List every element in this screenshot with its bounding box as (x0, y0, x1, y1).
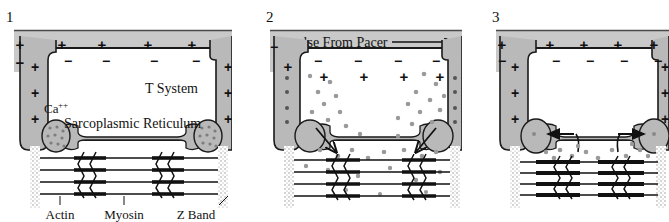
svg-text:+: + (320, 68, 329, 85)
label-calcium-superscript: ++ (58, 100, 68, 110)
svg-text:+: + (436, 68, 445, 85)
svg-text:−: − (16, 54, 25, 71)
svg-text:−: − (354, 53, 362, 69)
panel-2-number: 2 (266, 10, 274, 25)
svg-text:−: − (314, 53, 322, 69)
svg-text:+: + (31, 59, 39, 75)
svg-text:+: + (614, 36, 623, 53)
svg-text:−: − (552, 53, 560, 69)
svg-text:+: + (98, 36, 107, 53)
svg-text:+: + (498, 36, 507, 53)
tubule-charges-right: +++ (224, 59, 232, 127)
panel-3: 3 (468, 0, 669, 222)
myofibrils (40, 152, 218, 198)
svg-text:−: − (586, 53, 594, 69)
svg-text:−: − (620, 53, 628, 69)
panel-1-number: 1 (6, 10, 14, 25)
myofibrils (520, 156, 658, 199)
svg-text:+: + (580, 36, 589, 53)
panel-3-number: 3 (492, 10, 500, 25)
z-band-left (284, 146, 294, 208)
z-band-right (218, 146, 228, 208)
svg-text:+: + (224, 85, 232, 101)
svg-text:+: + (400, 68, 409, 85)
z-band-right (656, 146, 666, 208)
svg-text:−: − (498, 53, 506, 69)
left-edge-negative: − (498, 53, 506, 69)
svg-text:+: + (284, 58, 293, 75)
svg-text:+: + (650, 36, 659, 53)
z-band-left (30, 146, 40, 208)
svg-text:−: − (150, 53, 158, 69)
label-actin: Actin (46, 207, 75, 222)
leader-lines (60, 196, 228, 205)
terminal-cisterna-left (295, 120, 325, 152)
svg-text:+: + (546, 36, 555, 53)
svg-text:+: + (188, 36, 197, 53)
left-edge-negative: − (16, 54, 25, 71)
z-band-right (450, 146, 460, 208)
svg-text:−: − (102, 53, 110, 69)
tubule-charges-left: +++ (31, 59, 39, 127)
svg-text:+: + (661, 111, 669, 127)
svg-text:+: + (58, 36, 67, 53)
svg-text:+: + (144, 36, 153, 53)
svg-text:+: + (16, 36, 25, 53)
svg-text:+: + (360, 68, 369, 85)
svg-text:−: − (394, 53, 402, 69)
stored-calcium-left (532, 132, 536, 136)
label-calcium: Ca (44, 101, 59, 116)
panel-2: 2 Impulse From Pacer (240, 0, 462, 222)
svg-text:−: − (192, 53, 200, 69)
svg-text:+: + (224, 111, 232, 127)
label-myosin: Myosin (104, 207, 144, 222)
svg-text:+: + (224, 59, 232, 75)
svg-text:+: + (661, 85, 669, 101)
figure-root: 1 (0, 0, 669, 222)
svg-text:+: + (661, 59, 669, 75)
label-z-band: Z Band (177, 207, 216, 222)
z-band-left (510, 146, 520, 208)
label-t-system: T System (145, 81, 198, 96)
stored-calcium-right (652, 132, 656, 136)
terminal-cisterna-right (423, 120, 453, 152)
panel-1: 1 (0, 0, 232, 222)
svg-text:−: − (270, 39, 278, 55)
terminal-cisterna-left (521, 119, 551, 153)
svg-text:+: + (511, 85, 519, 101)
svg-text:+: + (511, 111, 519, 127)
label-sarcoplasmic-reticulum: Sarcoplasmic Reticulum (64, 116, 201, 131)
svg-text:−: − (432, 53, 440, 69)
svg-text:+: + (31, 85, 39, 101)
tubule-charges-right: +++ (661, 59, 669, 127)
tubule-charges-left: +++ (511, 59, 519, 127)
svg-text:+: + (31, 111, 39, 127)
svg-text:+: + (511, 59, 519, 75)
svg-text:−: − (64, 53, 72, 69)
